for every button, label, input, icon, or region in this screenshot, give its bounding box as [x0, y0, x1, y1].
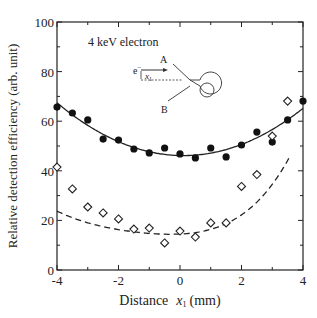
- filled-circle-point: [115, 136, 122, 143]
- dashed-fit-curve: [57, 158, 289, 235]
- filled-circle-point: [161, 144, 168, 151]
- filled-circle-point: [284, 116, 291, 123]
- open-diamond-point: [222, 219, 230, 227]
- open-diamond-point: [99, 209, 107, 217]
- open-diamond-point: [115, 215, 123, 223]
- y-tick-label: 100: [35, 15, 55, 30]
- solid-fit-curve: [57, 103, 303, 156]
- filled-circle-point: [84, 116, 91, 123]
- filled-circle-point: [238, 141, 245, 148]
- filled-circle-point: [299, 98, 306, 105]
- x-tick-label: -4: [52, 273, 63, 288]
- electrode-a-line: [173, 64, 190, 80]
- electrode-b-label: B: [161, 104, 168, 115]
- y-tick-label: 40: [41, 164, 54, 179]
- filled-circle-point: [192, 154, 199, 161]
- detection-efficiency-chart: 020406080100-4-2024 4 keV electron e− x1…: [0, 0, 317, 318]
- filled-circle-point: [253, 129, 260, 136]
- electrode-a-label: A: [160, 54, 168, 65]
- filled-circle-point: [207, 144, 214, 151]
- open-diamond-point: [191, 233, 199, 241]
- energy-annotation: 4 keV electron: [88, 35, 158, 49]
- open-diamond-point: [84, 203, 92, 211]
- x-tick-label: -2: [113, 273, 124, 288]
- filled-circle-point: [53, 103, 60, 110]
- beam-arrowhead-icon: [163, 68, 168, 72]
- filled-circle-point: [130, 145, 137, 152]
- open-diamond-point: [145, 224, 153, 232]
- open-diamond-point: [284, 97, 292, 105]
- inset-diagram: e− x1 A B: [133, 54, 222, 115]
- filled-circle-point: [69, 109, 76, 116]
- open-diamond-point: [253, 171, 261, 179]
- filled-circle-point: [100, 135, 107, 142]
- open-diamond-point: [68, 185, 76, 193]
- electrode-b-line: [168, 86, 190, 101]
- y-axis-label: Relative detection efficiency (arb. unit…: [5, 44, 20, 248]
- axis-ticks: 020406080100-4-2024: [35, 15, 307, 288]
- fit-curves: [57, 103, 303, 235]
- filled-circle-point: [176, 150, 183, 157]
- x-tick-label: 4: [300, 273, 307, 288]
- open-diamond-point: [53, 163, 61, 171]
- open-diamond-point: [207, 219, 215, 227]
- x-axis-label: Distancex1(mm): [119, 293, 221, 309]
- x-tick-label: 2: [238, 273, 245, 288]
- filled-circle-point: [146, 149, 153, 156]
- open-diamond-point: [161, 239, 169, 247]
- inset-electron-label: e−: [133, 64, 141, 76]
- open-diamond-point: [238, 182, 246, 190]
- inset-x1-label: x1: [144, 71, 152, 82]
- open-diamond-point: [268, 132, 276, 140]
- data-points: [53, 97, 307, 247]
- y-tick-label: 20: [41, 213, 54, 228]
- y-tick-label: 80: [41, 65, 54, 80]
- x-tick-label: 0: [177, 273, 184, 288]
- y-tick-label: 60: [41, 114, 54, 129]
- filled-circle-point: [223, 153, 230, 160]
